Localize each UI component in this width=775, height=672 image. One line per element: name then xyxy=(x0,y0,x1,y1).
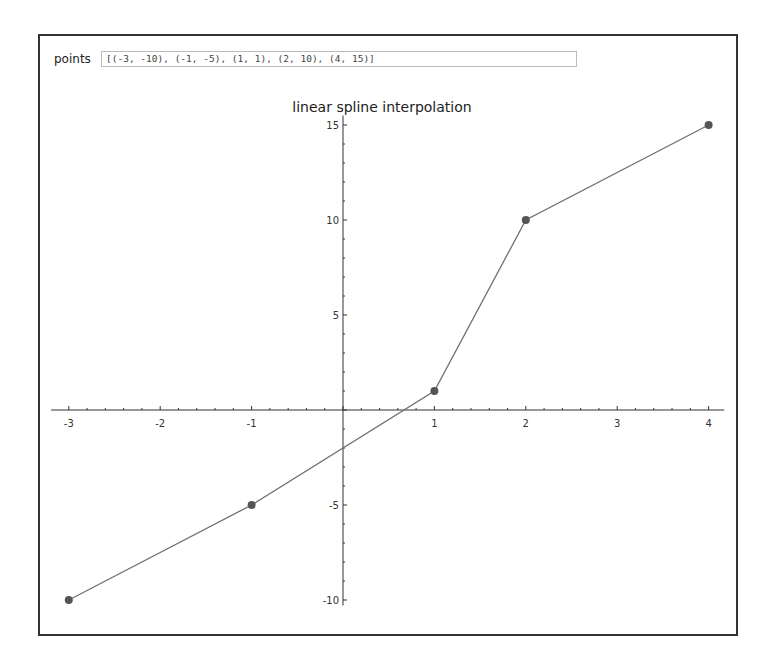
chart-title: linear spline interpolation xyxy=(292,99,471,115)
x-tick-label: 3 xyxy=(614,418,620,429)
data-series xyxy=(65,121,713,604)
x-tick-label: 1 xyxy=(431,418,437,429)
axes: -3-2-11234-10-551015 xyxy=(51,116,724,607)
data-point xyxy=(705,121,713,129)
y-tick-label: 5 xyxy=(333,310,339,321)
y-tick-label: 10 xyxy=(326,215,339,226)
x-tick-label: -1 xyxy=(247,418,257,429)
x-tick-label: 4 xyxy=(705,418,711,429)
y-tick-label: -10 xyxy=(323,595,339,606)
data-point xyxy=(65,596,73,604)
data-point xyxy=(522,216,530,224)
spline-line xyxy=(69,125,709,600)
y-tick-label: -5 xyxy=(329,500,339,511)
x-tick-label: -3 xyxy=(64,418,74,429)
x-tick-label: -2 xyxy=(155,418,165,429)
data-point xyxy=(248,501,256,509)
data-point xyxy=(430,387,438,395)
x-tick-label: 2 xyxy=(523,418,529,429)
chart: linear spline interpolation -3-2-11234-1… xyxy=(0,0,775,672)
y-tick-label: 15 xyxy=(326,120,339,131)
